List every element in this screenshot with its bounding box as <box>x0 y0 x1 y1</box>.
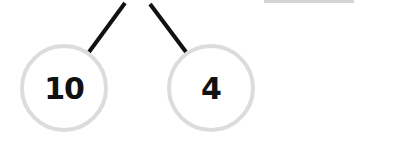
number-bond-diagram: 10 4 <box>0 0 406 162</box>
left-node-value: 10 <box>44 71 84 106</box>
top-answer-box-edge <box>264 0 354 3</box>
left-node-circle: 10 <box>20 44 108 132</box>
right-node-circle: 4 <box>167 44 255 132</box>
right-node-value: 4 <box>201 71 221 106</box>
edge-to-left-node <box>89 3 125 52</box>
edge-to-right-node <box>150 4 186 52</box>
